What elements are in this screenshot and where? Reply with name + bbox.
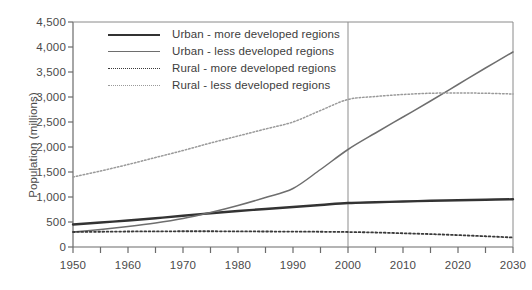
x-axis-tick-label: 1990 (280, 259, 306, 271)
x-axis-tick-label: 1960 (115, 259, 141, 271)
x-axis-tick-label: 2030 (500, 259, 526, 271)
x-axis-tick-label: 2000 (335, 259, 361, 271)
legend-label-rural-more-developed: Rural - more developed regions (172, 62, 336, 74)
y-axis-tick-label: 2,500 (36, 116, 66, 128)
legend-item: Urban - more developed regions (108, 26, 338, 42)
y-axis-tick-label: 4,500 (36, 16, 66, 28)
y-axis-tick-labels: 05001,0001,5002,0002,5003,0003,5004,0004… (28, 0, 66, 290)
legend-item: Rural - more developed regions (108, 60, 338, 76)
population-line-chart: Population (millions) 05001,0001,5002,00… (0, 0, 532, 290)
legend-swatch-rural-more-developed (108, 62, 160, 74)
legend-swatch-rural-less-developed (108, 79, 160, 91)
y-axis-tick-label: 3,000 (36, 91, 66, 103)
series-line-rural-more-developed-regions (73, 231, 513, 237)
y-axis-tick-label: 1,000 (36, 191, 66, 203)
legend-item: Urban - less developed regions (108, 43, 338, 59)
legend-label-rural-less-developed: Rural - less developed regions (172, 79, 330, 91)
series-line-urban-more-developed-regions (73, 199, 513, 224)
y-axis-tick-label: 2,000 (36, 141, 66, 153)
legend-item: Rural - less developed regions (108, 77, 338, 93)
x-axis-tick-label: 1980 (225, 259, 251, 271)
legend-swatch-urban-more-developed (108, 28, 160, 40)
legend-swatch-urban-less-developed (108, 45, 160, 57)
legend-label-urban-more-developed: Urban - more developed regions (172, 28, 340, 40)
x-axis-tick-label: 1950 (60, 259, 86, 271)
legend-label-urban-less-developed: Urban - less developed regions (172, 45, 334, 57)
y-axis-tick-label: 1,500 (36, 166, 66, 178)
y-axis-tick-label: 500 (46, 216, 66, 228)
series-line-rural-less-developed-regions (73, 93, 513, 177)
x-axis-tick-label: 2010 (390, 259, 416, 271)
chart-legend: Urban - more developed regions Urban - l… (108, 26, 338, 94)
y-axis-tick-label: 4,000 (36, 41, 66, 53)
y-axis-tick-label: 3,500 (36, 66, 66, 78)
x-axis-tick-label: 2020 (445, 259, 471, 271)
y-axis-tick-label: 0 (59, 241, 66, 253)
x-axis-tick-label: 1970 (170, 259, 196, 271)
